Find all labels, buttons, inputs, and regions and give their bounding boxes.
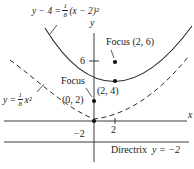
focus-shifted-label: Focus (2, 6)	[106, 37, 154, 47]
tick-label-neg2: −2	[74, 129, 85, 139]
focus-shifted-point	[113, 60, 117, 64]
equation-rhs: x²	[25, 95, 32, 105]
directrix-word: Directrix	[111, 145, 147, 155]
origin-point	[92, 119, 96, 123]
vertex-shifted-point	[113, 79, 117, 83]
vertex-shifted-label: (2, 4)	[97, 86, 119, 96]
focus-basic-point-label: (0, 2)	[62, 95, 84, 105]
focus-basic-word-label: Focus	[61, 76, 85, 86]
x-axis-label: x	[188, 110, 192, 120]
equation-rhs: (x − 2)²	[69, 6, 98, 16]
x-tick-label-2: 2	[111, 125, 116, 135]
fraction-one-eighth: 1 8	[18, 91, 24, 108]
basic-parabola-equation: y = 1 8 x²	[3, 91, 32, 108]
fraction-one-eighth: 1 8	[62, 2, 68, 19]
directrix-label: Directrix y = −2	[111, 145, 180, 155]
equation-lhs: y =	[3, 95, 16, 105]
shifted-parabola-curve	[45, 26, 192, 82]
directrix-equation: y = −2	[152, 145, 180, 155]
leader-focus-basic	[86, 88, 92, 97]
y-axis-label: y	[90, 18, 94, 28]
leader-focus-shifted	[111, 50, 114, 58]
parabola-figure: y − 4 = 1 8 (x − 2)² y = 1 8 x² y x 6 2 …	[0, 0, 194, 169]
leader-basic-equation	[37, 84, 44, 92]
equation-lhs: y − 4 =	[32, 6, 61, 16]
focus-basic-point	[92, 99, 96, 103]
leader-shifted-equation	[50, 25, 57, 34]
shifted-parabola-equation: y − 4 = 1 8 (x − 2)²	[32, 2, 99, 19]
y-tick-label-6: 6	[80, 56, 85, 66]
